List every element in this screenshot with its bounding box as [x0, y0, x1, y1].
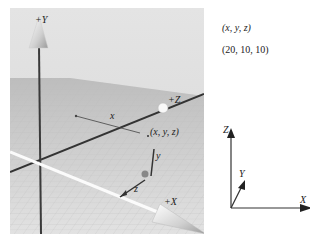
- y-component-label: y: [156, 150, 160, 161]
- mini-x-arrow: [300, 204, 310, 212]
- mini-y-label: Y: [239, 168, 245, 179]
- z-axis-handle[interactable]: [158, 103, 168, 113]
- coord-value-text: (20, 10, 10): [222, 44, 269, 55]
- 3d-viewport[interactable]: +Y +Z +X x y z (x, y, z): [10, 8, 204, 234]
- z-axis-label: +Z: [168, 94, 180, 105]
- point-label: (x, y, z): [150, 126, 179, 137]
- y-axis-label: +Y: [35, 14, 47, 25]
- point-marker[interactable]: [142, 171, 149, 178]
- mini-y-arrow: [238, 180, 245, 190]
- mini-x-label: X: [300, 194, 306, 205]
- z-component-label: z: [134, 183, 138, 194]
- x-component-label: x: [110, 110, 114, 121]
- x-axis-label: +X: [164, 196, 177, 207]
- mini-axes-graphics: [220, 120, 310, 220]
- mini-axes-diagram: Z Y X: [220, 120, 310, 220]
- mini-z-label: Z: [223, 124, 229, 135]
- coord-form-text: (x, y, z): [222, 22, 251, 33]
